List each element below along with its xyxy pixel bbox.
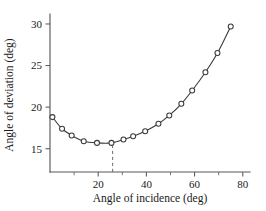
data-point-marker (131, 134, 136, 139)
y-tick-marks (46, 24, 51, 149)
data-point-marker (179, 101, 184, 106)
data-point-marker (94, 140, 99, 145)
y-tick-label: 25 (31, 59, 43, 71)
data-point-marker (167, 113, 172, 118)
data-point-marker (109, 140, 114, 145)
y-tick-label: 30 (31, 18, 43, 30)
y-tick-label: 20 (31, 101, 43, 113)
x-axis-title: Angle of incidence (deg) (93, 192, 208, 205)
series-markers (50, 24, 233, 145)
series-line-angle-of-deviation (52, 26, 230, 143)
x-tick-label: 20 (93, 178, 105, 190)
y-tick-labels: 15202530 (31, 18, 43, 155)
y-axis-title: Angle of deviation (deg) (3, 38, 16, 152)
x-tick-label: 60 (189, 178, 201, 190)
y-tick-label: 15 (31, 143, 43, 155)
deviation-vs-incidence-chart: 15202530 20406080 Angle of incidence (de… (0, 0, 266, 211)
data-point-marker (228, 24, 233, 29)
figure-container: 15202530 20406080 Angle of incidence (de… (0, 0, 266, 211)
data-point-marker (156, 121, 161, 126)
x-tick-labels: 20406080 (93, 178, 249, 190)
data-point-marker (190, 88, 195, 93)
data-point-marker (203, 70, 208, 75)
data-point-marker (60, 126, 65, 131)
data-point-marker (121, 137, 126, 142)
data-point-marker (69, 133, 74, 138)
data-point-marker (50, 115, 55, 120)
data-point-marker (143, 129, 148, 134)
data-point-marker (215, 51, 220, 56)
x-tick-label: 40 (141, 178, 153, 190)
data-point-marker (81, 139, 86, 144)
x-tick-label: 80 (237, 178, 249, 190)
